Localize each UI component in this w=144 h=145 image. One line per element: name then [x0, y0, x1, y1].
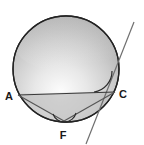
vertex-label-f: F [60, 129, 67, 141]
circle-top-sheen [12, 8, 120, 72]
vertex-label-a: A [5, 90, 13, 102]
vertex-label-c: C [119, 88, 127, 100]
geometry-figure: A C F [0, 0, 144, 145]
geometry-canvas: A C F [0, 0, 144, 145]
